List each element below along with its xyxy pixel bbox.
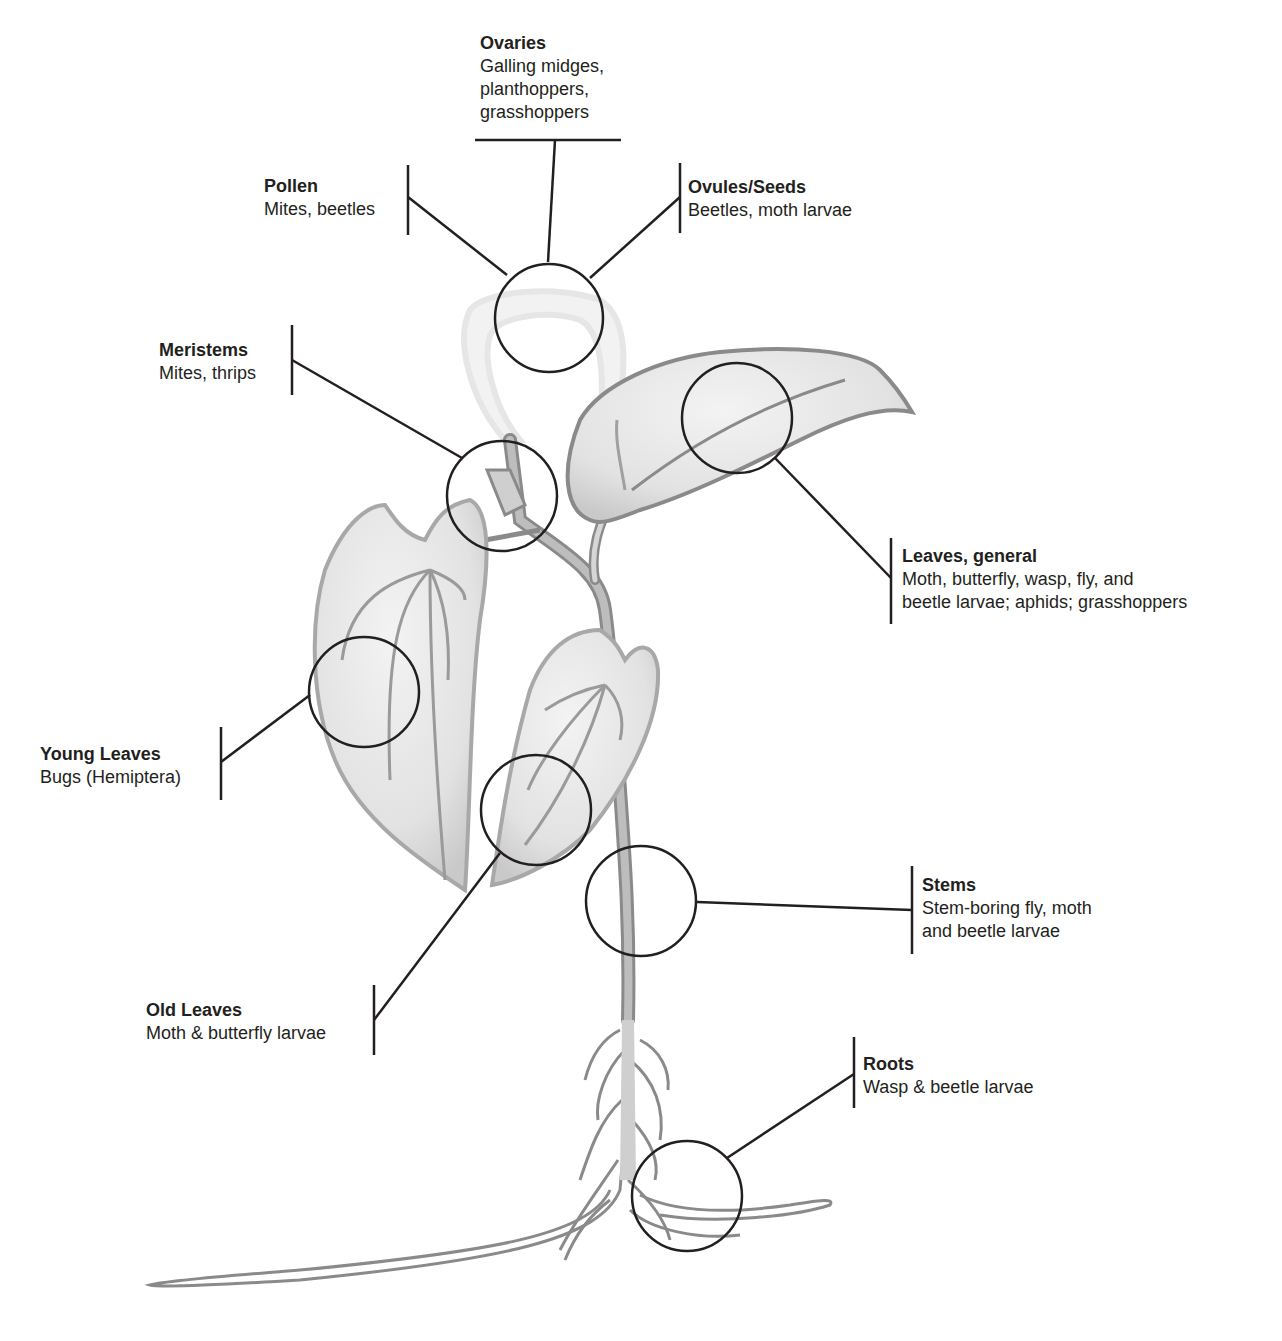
label-meristems: Meristems Mites, thrips [159,339,256,385]
label-ovules-line: Beetles, moth larvae [688,199,852,222]
circle-stems [586,846,696,956]
label-leaves-general: Leaves, general Moth, butterfly, wasp, f… [902,545,1187,614]
label-old-leaves: Old Leaves Moth & butterfly larvae [146,999,326,1045]
label-stems-line: Stem-boring fly, moth [922,897,1092,920]
label-roots-line: Wasp & beetle larvae [863,1076,1033,1099]
plant-diagram [0,0,1282,1341]
label-stems-line: and beetle larvae [922,920,1092,943]
label-ovaries-line: grasshoppers [480,101,604,124]
label-ovules-seeds: Ovules/Seeds Beetles, moth larvae [688,176,852,222]
label-young-leaves-title: Young Leaves [40,743,181,766]
roots [150,1020,831,1286]
label-stems: Stems Stem-boring fly, moth and beetle l… [922,874,1092,943]
label-old-leaves-line: Moth & butterfly larvae [146,1022,326,1045]
label-old-leaves-title: Old Leaves [146,999,326,1022]
label-pollen: Pollen Mites, beetles [264,175,375,221]
label-young-leaves-line: Bugs (Hemiptera) [40,766,181,789]
label-pollen-title: Pollen [264,175,375,198]
label-young-leaves: Young Leaves Bugs (Hemiptera) [40,743,181,789]
label-leaves-general-title: Leaves, general [902,545,1187,568]
label-roots: Roots Wasp & beetle larvae [863,1053,1033,1099]
taproot [620,1020,636,1180]
label-ovaries-title: Ovaries [480,32,604,55]
label-stems-title: Stems [922,874,1092,897]
label-ovaries-line: Galling midges, [480,55,604,78]
label-ovules-title: Ovules/Seeds [688,176,852,199]
label-pollen-line: Mites, beetles [264,198,375,221]
label-meristems-title: Meristems [159,339,256,362]
leaf-young [315,500,487,890]
label-leaves-general-line: beetle larvae; aphids; grasshoppers [902,591,1187,614]
label-leaves-general-line: Moth, butterfly, wasp, fly, and [902,568,1187,591]
label-ovaries: Ovaries Galling midges, planthoppers, gr… [480,32,604,124]
label-ovaries-line: planthoppers, [480,78,604,101]
label-meristems-line: Mites, thrips [159,362,256,385]
label-roots-title: Roots [863,1053,1033,1076]
